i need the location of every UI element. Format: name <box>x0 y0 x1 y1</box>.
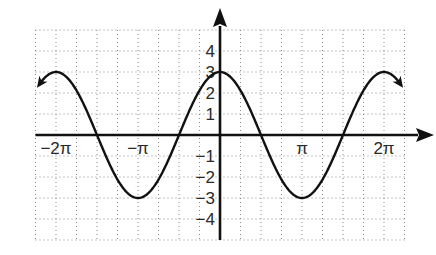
y-tick-label: 4 <box>206 42 215 61</box>
x-tick-label: π <box>296 139 308 158</box>
x-tick-label: −π <box>127 139 149 158</box>
cosine-graph: −2π−ππ2π4321−1−2−3−4 <box>0 0 436 255</box>
y-tick-label: 1 <box>206 105 215 124</box>
x-tick-label: −2π <box>40 139 71 158</box>
axes <box>35 8 434 240</box>
x-axis-arrow-icon <box>416 128 434 142</box>
y-tick-label: −4 <box>196 210 215 229</box>
x-tick-label: 2π <box>373 139 394 158</box>
y-tick-label: −2 <box>196 168 215 187</box>
y-tick-label: 2 <box>206 84 215 103</box>
y-axis-arrow-icon <box>213 8 227 27</box>
y-tick-label: −3 <box>196 189 215 208</box>
y-tick-label: −1 <box>196 147 215 166</box>
